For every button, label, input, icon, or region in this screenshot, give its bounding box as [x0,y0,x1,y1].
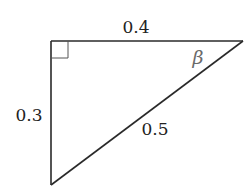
side-top-label: 0.4 [122,17,149,37]
angle-beta-label: β [192,46,204,68]
side-left-label: 0.3 [15,105,42,125]
side-hypotenuse [51,41,243,185]
right-angle-marker-icon [51,41,68,58]
side-hypotenuse-label: 0.5 [141,119,168,139]
triangle-diagram: 0.4 0.3 0.5 β [0,0,250,195]
